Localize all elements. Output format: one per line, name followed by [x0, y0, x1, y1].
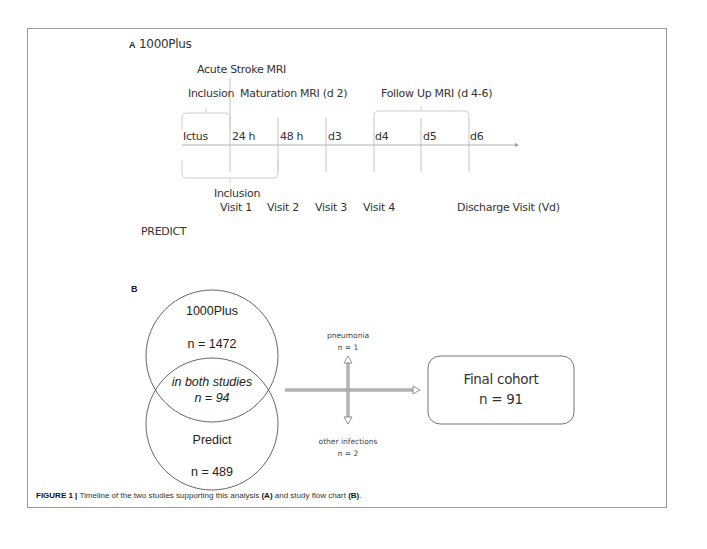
caption-text-1: Timeline of the two studies supporting t… [77, 491, 261, 500]
caption-ref-a: (A) [261, 491, 272, 500]
inclusion-bottom-label: Inclusion [214, 187, 260, 200]
visit-1-label: Visit 1 [220, 201, 252, 214]
acute-mri-label: Acute Stroke MRI [197, 63, 286, 76]
followup-bracket [374, 111, 469, 118]
figure-graphics [0, 0, 707, 549]
venn-1000plus-n: n = 1472 [162, 337, 262, 351]
other-infections-n: n = 2 [303, 449, 393, 458]
timeline-arrowhead-icon [515, 143, 519, 147]
maturation-mri-label: Maturation MRI (d 2) [240, 87, 347, 100]
pneumonia-n: n = 1 [318, 343, 378, 352]
tick-24h: 24 h [232, 130, 255, 143]
venn-overlap-name: in both studies [152, 375, 272, 389]
caption-ref-b: (B) [348, 491, 359, 500]
other-infections-label: other infections [303, 437, 393, 446]
visit-3-label: Visit 3 [315, 201, 347, 214]
discharge-visit-label: Discharge Visit (Vd) [457, 201, 560, 214]
caption-end: . [359, 491, 361, 500]
caption-prefix: FIGURE 1 | [36, 491, 77, 500]
panel-a-label: A [129, 40, 136, 50]
tick-48h: 48 h [280, 130, 303, 143]
visit-2-label: Visit 2 [267, 201, 299, 214]
visit-4-label: Visit 4 [363, 201, 395, 214]
inclusion-top-bracket [182, 113, 230, 130]
pneumonia-label: pneumonia [318, 331, 378, 340]
final-cohort-n: n = 91 [428, 391, 574, 407]
inclusion-top-label: Inclusion [188, 87, 234, 100]
tick-d6: d6 [470, 130, 483, 143]
final-cohort-name: Final cohort [428, 371, 574, 387]
tick-d3: d3 [328, 130, 341, 143]
study2-title: PREDICT [141, 225, 186, 238]
tick-d5: d5 [423, 130, 436, 143]
caption-text-2: and study flow chart [273, 491, 349, 500]
venn-predict-n: n = 489 [162, 465, 262, 479]
venn-1000plus-name: 1000Plus [162, 304, 262, 318]
venn-predict-name: Predict [162, 433, 262, 447]
figure-caption: FIGURE 1 | Timeline of the two studies s… [36, 491, 362, 500]
panel-b-label: B [131, 284, 138, 294]
final-cohort-box [428, 356, 574, 424]
flow-arrow [285, 386, 420, 394]
tick-d4: d4 [375, 130, 388, 143]
followup-mri-label: Follow Up MRI (d 4-6) [381, 87, 492, 100]
study1-title: 1000Plus [139, 37, 192, 51]
venn-overlap-n: n = 94 [162, 391, 262, 405]
tick-ictus: Ictus [183, 130, 208, 143]
